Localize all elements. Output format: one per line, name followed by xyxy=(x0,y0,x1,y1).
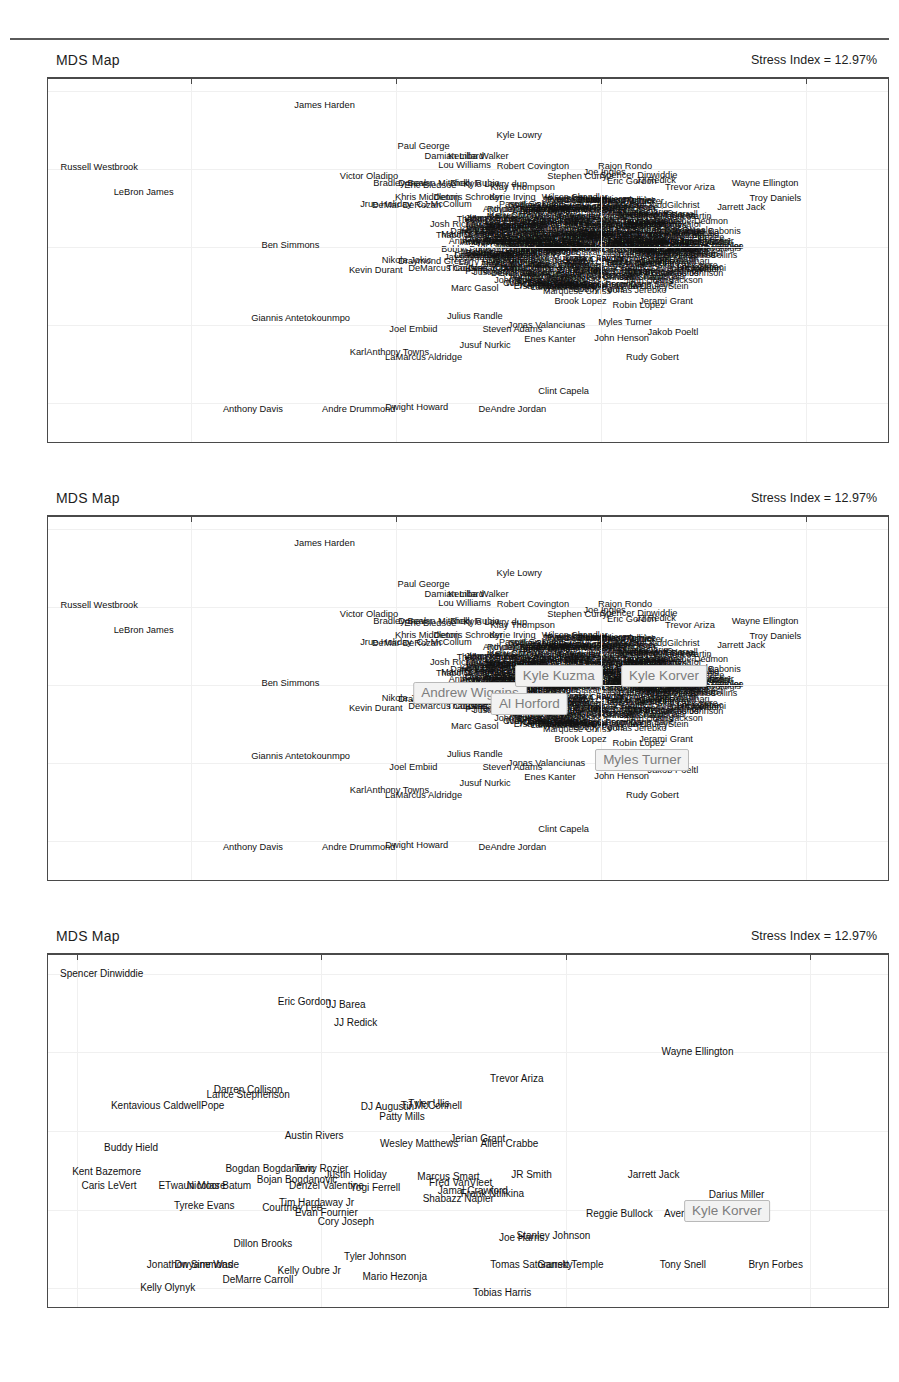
data-point-label[interactable]: Klay Thompson xyxy=(490,183,554,192)
data-point-label[interactable]: Kentavious CaldwellPope xyxy=(111,1101,224,1111)
data-point-label[interactable]: Kelly Olynyk xyxy=(140,1283,195,1293)
highlighted-point-tooltip[interactable]: Kyle Kuzma xyxy=(515,665,603,687)
data-point-label[interactable]: Tyler Johnson xyxy=(344,1252,406,1262)
data-point-label[interactable]: Kyle Korver xyxy=(625,237,673,246)
data-point-label[interactable]: Ben Simmons xyxy=(262,679,320,688)
data-point-label[interactable]: Jerami Grant xyxy=(639,736,693,745)
data-point-label[interactable]: Wesley Matthews xyxy=(380,1139,458,1149)
data-point-label[interactable]: Julius Randle xyxy=(447,312,503,321)
data-point-label[interactable]: Tony Snell xyxy=(660,1260,706,1270)
data-point-label[interactable]: Jarrett Jack xyxy=(717,203,765,212)
data-point-label[interactable]: Kyrie Irving xyxy=(489,632,536,641)
data-point-label[interactable]: Rudy Gobert xyxy=(626,791,679,800)
data-point-label[interactable]: JJ Barea xyxy=(326,1000,365,1010)
data-point-label[interactable]: Jae Crowder xyxy=(573,692,624,701)
data-point-label[interactable]: Lance Stephenson xyxy=(207,1090,290,1100)
data-point-label[interactable]: Spencer Dinwiddie xyxy=(60,969,143,979)
data-point-label[interactable]: Al Horford xyxy=(491,258,533,267)
mds-plot-area-1[interactable]: Wilson ChandlerThabo SefoloshaMarcus Mor… xyxy=(47,77,889,443)
data-point-label[interactable]: DeAndre Jordan xyxy=(479,843,547,852)
data-point-label[interactable]: Mario Hezonja xyxy=(362,1272,426,1282)
data-point-label[interactable]: Eric Gordon xyxy=(278,997,331,1007)
data-point-label[interactable]: Anthony Davis xyxy=(223,405,283,414)
data-point-label[interactable]: Andrew Wiggins xyxy=(462,238,529,247)
data-point-label[interactable]: Dwyane Wade xyxy=(174,1260,239,1270)
data-point-label[interactable]: JJ Redick xyxy=(334,1018,377,1028)
data-point-label[interactable]: Eric Bledsoe xyxy=(404,620,456,629)
data-point-label[interactable]: Nicolas Batum xyxy=(187,1181,251,1191)
mds-plot-area-3[interactable]: 2.01.51.00.50.00123Spencer DinwiddieEric… xyxy=(47,953,889,1308)
data-point-label[interactable]: Kevin Durant xyxy=(349,266,403,275)
data-point-label[interactable]: Enes Kanter xyxy=(524,335,575,344)
data-point-label[interactable]: Jae Crowder xyxy=(573,254,624,263)
data-point-label[interactable]: Patty Mills xyxy=(379,1112,425,1122)
data-point-label[interactable]: Trevor Ariza xyxy=(490,1074,544,1084)
data-point-label[interactable]: Jeff Green xyxy=(620,711,662,720)
data-point-label[interactable]: Kyrie Irving xyxy=(489,194,536,203)
data-point-label[interactable]: Tobias Harris xyxy=(473,1288,531,1298)
data-point-label[interactable]: Tyreke Evans xyxy=(174,1201,235,1211)
data-point-label[interactable]: John Henson xyxy=(594,334,649,343)
highlighted-point-tooltip[interactable]: Myles Turner xyxy=(595,749,689,771)
data-point-label[interactable]: Eric Bledsoe xyxy=(404,182,456,191)
data-point-label[interactable]: Kyle Lowry xyxy=(496,569,541,578)
data-point-label[interactable]: James Harden xyxy=(294,102,354,111)
data-point-label[interactable]: LaMarcus Aldridge xyxy=(385,353,462,362)
data-point-label[interactable]: Brook Lopez xyxy=(555,298,607,307)
data-point-label[interactable]: Dwight Powell xyxy=(652,701,709,710)
data-point-label[interactable]: JR Smith xyxy=(511,1170,552,1180)
data-point-label[interactable]: Jakob Poeltl xyxy=(648,328,699,337)
data-point-label[interactable]: Wayne Ellington xyxy=(732,179,799,188)
data-point-label[interactable]: Jonas Jerebko xyxy=(525,281,584,290)
data-point-label[interactable]: Kent Bazemore xyxy=(72,1167,141,1177)
data-point-label[interactable]: Giannis Antetokounmpo xyxy=(251,752,350,761)
data-point-label[interactable]: James Harden xyxy=(294,540,354,549)
data-point-label[interactable]: Russell Westbrook xyxy=(61,163,138,172)
data-point-label[interactable]: LeBron James xyxy=(114,626,174,635)
data-point-label[interactable]: DeAndre Jordan xyxy=(479,405,547,414)
data-point-label[interactable]: Jarrett Jack xyxy=(628,1170,680,1180)
data-point-label[interactable]: John Henson xyxy=(594,772,649,781)
data-point-label[interactable]: CJ McCollum xyxy=(416,638,471,647)
data-point-label[interactable]: Enes Kanter xyxy=(524,773,575,782)
data-point-label[interactable]: Dwight Howard xyxy=(385,841,448,850)
data-point-label[interactable]: DeMarre Carroll xyxy=(222,1275,293,1285)
highlighted-point-tooltip[interactable]: Kyle Korver xyxy=(621,665,707,687)
data-point-label[interactable]: Giannis Antetokounmpo xyxy=(251,314,350,323)
data-point-label[interactable]: Jonas Valanciunas xyxy=(508,321,585,330)
data-point-label[interactable]: Ersan Ilyasova xyxy=(576,633,635,642)
mds-plot-area-2[interactable]: Wilson ChandlerThabo SefoloshaMarcus Mor… xyxy=(47,515,889,881)
highlighted-point-tooltip[interactable]: Al Horford xyxy=(491,693,568,715)
data-point-label[interactable]: Dwight Powell xyxy=(652,263,709,272)
data-point-label[interactable]: Julius Randle xyxy=(447,750,503,759)
data-point-label[interactable]: Joel Embiid xyxy=(389,763,437,772)
data-point-label[interactable]: CJ McCollum xyxy=(416,200,471,209)
data-point-label[interactable]: Stephen Curry xyxy=(547,610,607,619)
data-point-label[interactable]: Bryn Forbes xyxy=(748,1260,802,1270)
data-point-label[interactable]: Ben Simmons xyxy=(262,241,320,250)
data-point-label[interactable]: Buddy Hield xyxy=(104,1143,158,1153)
data-point-label[interactable]: Stanley Johnson xyxy=(516,1231,590,1241)
data-point-label[interactable]: Clint Capela xyxy=(538,387,589,396)
data-point-label[interactable]: Kevin Durant xyxy=(349,704,403,713)
data-point-label[interactable]: Dewayne Dedmon xyxy=(654,654,728,663)
data-point-label[interactable]: Jusuf Nurkic xyxy=(459,342,510,351)
data-point-label[interactable]: Jonas Jerebko xyxy=(525,719,584,728)
data-point-label[interactable]: Marc Gasol xyxy=(451,284,499,293)
data-point-label[interactable]: Clint Capela xyxy=(538,825,589,834)
data-point-label[interactable]: Trevor Ariza xyxy=(665,183,715,192)
data-point-label[interactable]: Klay Thompson xyxy=(490,621,554,630)
data-point-label[interactable]: Wayne Ellington xyxy=(732,617,799,626)
data-point-label[interactable]: Dewayne Dedmon xyxy=(654,216,728,225)
data-point-label[interactable]: Yogi Ferrell xyxy=(350,1183,400,1193)
data-point-label[interactable]: Anthony Davis xyxy=(223,843,283,852)
data-point-label[interactable]: Joel Embiid xyxy=(389,325,437,334)
data-point-label[interactable]: Jerami Grant xyxy=(639,298,693,307)
data-point-label[interactable]: Austin Rivers xyxy=(285,1131,344,1141)
data-point-label[interactable]: Caris LeVert xyxy=(82,1181,137,1191)
data-point-label[interactable]: Lou Williams xyxy=(438,599,491,608)
data-point-label[interactable]: Dwight Howard xyxy=(385,403,448,412)
data-point-label[interactable]: Jusuf Nurkic xyxy=(459,780,510,789)
data-point-label[interactable]: Dillon Brooks xyxy=(233,1239,292,1249)
data-point-label[interactable]: Darius Miller xyxy=(709,1190,765,1200)
